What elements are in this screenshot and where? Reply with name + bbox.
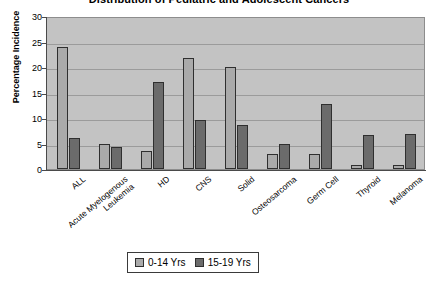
bar — [405, 134, 416, 169]
bar — [237, 125, 248, 169]
bar — [279, 144, 290, 170]
bar — [111, 147, 122, 169]
chart-title: Distribution of Pediatric and Adolescent… — [0, 0, 438, 5]
x-axis-category-label-line1: HD — [156, 174, 172, 190]
bar-group — [215, 18, 257, 169]
x-axis-category-labels: ALLAcute MyelogenousLeukemiaHDCNSSolidOs… — [46, 172, 425, 246]
bar-group — [342, 18, 384, 169]
x-axis-category-label-line1: ALL — [69, 174, 87, 191]
bar — [57, 47, 68, 169]
legend-swatch-icon — [195, 258, 204, 267]
y-axis-tick-marks — [0, 17, 46, 170]
bar — [99, 144, 110, 170]
bar — [363, 135, 374, 169]
x-axis-category-label-line1: CNS — [194, 174, 214, 193]
x-axis-category-label-line1: Thyroid — [354, 174, 382, 200]
bar-group — [384, 18, 426, 169]
chart-figure: Distribution of Pediatric and Adolescent… — [0, 0, 438, 282]
bar — [309, 154, 320, 169]
legend-item: 15-19 Yrs — [195, 257, 251, 268]
legend-label: 15-19 Yrs — [208, 257, 251, 268]
legend-swatch-icon — [135, 258, 144, 267]
chart-legend: 0-14 Yrs15-19 Yrs — [127, 252, 259, 273]
bar-group — [173, 18, 215, 169]
bar-group — [89, 18, 131, 169]
x-axis-category-label-line1: Melanoma — [388, 174, 425, 207]
bar — [225, 67, 236, 169]
bar-group — [258, 18, 300, 169]
bar — [321, 104, 332, 169]
x-axis-line — [46, 170, 426, 171]
bar — [183, 58, 194, 169]
bar — [153, 82, 164, 169]
bar — [267, 154, 278, 169]
bar — [351, 165, 362, 169]
x-axis-category-label-line1: Solid — [235, 174, 256, 194]
bar — [141, 151, 152, 169]
legend-item: 0-14 Yrs — [135, 257, 186, 268]
x-axis-category-label-line1: Germ Cell — [304, 174, 340, 206]
plot-area — [46, 17, 425, 170]
y-axis-line — [46, 17, 47, 171]
bar — [195, 120, 206, 169]
bar-group — [300, 18, 342, 169]
bar-group — [131, 18, 173, 169]
bar — [393, 165, 404, 169]
legend-label: 0-14 Yrs — [148, 257, 186, 268]
bar-group — [47, 18, 89, 169]
bar — [69, 138, 80, 169]
